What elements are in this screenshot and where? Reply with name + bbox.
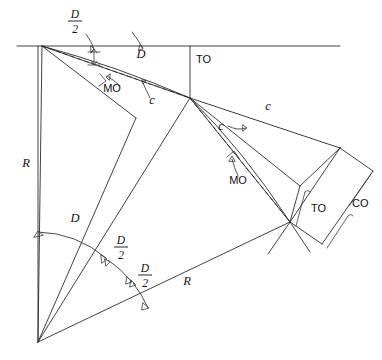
- edge-apex-to-first-station: [42, 46, 136, 118]
- quad-edge-bottom: [290, 222, 322, 244]
- curve-layout-diagram: D 2 D MO c TO c c MO TO CO R R D D 2 D 2: [0, 0, 382, 360]
- quad-inner-diagonal: [300, 148, 340, 186]
- label-r-lower: R: [182, 274, 191, 288]
- label-d-half-top-denominator: 2: [72, 23, 78, 35]
- chord-subtangent-right: [190, 98, 300, 186]
- edge-apex-to-center: [38, 46, 42, 342]
- label-mo-right: MO: [229, 174, 247, 186]
- label-d-top: D: [135, 47, 145, 61]
- label-d-half-low-denominator: 2: [142, 277, 148, 289]
- label-d-half-top-numerator: D: [70, 8, 80, 20]
- quad-edge-top: [340, 148, 373, 171]
- label-to-top: TO: [196, 53, 212, 65]
- label-d-half-top: D 2: [68, 8, 82, 35]
- label-c-right-long: c: [265, 99, 271, 113]
- radius-line-first-station: [38, 118, 136, 342]
- label-d-half-mid-denominator: 2: [118, 249, 124, 261]
- label-angle-d: D: [69, 211, 79, 225]
- label-d-half-mid: D 2: [114, 234, 128, 261]
- angle-arc-D: [38, 232, 106, 258]
- label-mo-left: MO: [103, 82, 121, 94]
- label-c-right-inner: c: [218, 119, 224, 133]
- label-c-left: c: [149, 93, 155, 107]
- arrowhead-angle-Dh2-end: [142, 303, 149, 310]
- label-to-right: TO: [311, 202, 327, 214]
- label-d-half-low: D 2: [138, 262, 152, 289]
- label-d-half-mid-numerator: D: [116, 234, 126, 246]
- diagram-canvas: D 2 D MO c TO c c MO TO CO R R D D 2 D 2: [0, 0, 382, 360]
- edge-far-station-down-right: [290, 222, 310, 252]
- label-r-left: R: [21, 156, 30, 170]
- leader-d-half-top: [86, 34, 94, 49]
- label-co-right: CO: [352, 197, 369, 209]
- label-d-half-low-numerator: D: [140, 262, 150, 274]
